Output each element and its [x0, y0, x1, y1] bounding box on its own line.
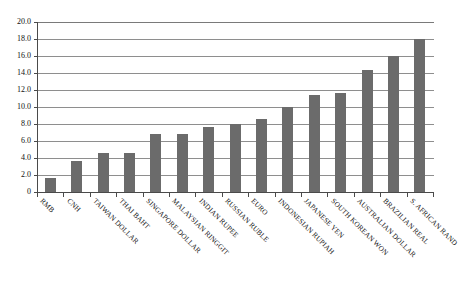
y-tick-label: 0	[0, 188, 31, 196]
x-axis-labels: RMBCNHTAIWAN DOLLARTHAI BAHTSINGAPORE DO…	[37, 197, 437, 284]
x-tick-label: TAIWAN DOLLAR	[91, 197, 140, 246]
bar	[414, 39, 425, 192]
x-tick-label: RMB	[39, 197, 56, 214]
y-tick-label: 18.0	[0, 35, 31, 43]
bar	[177, 134, 188, 192]
bar	[45, 178, 56, 192]
x-tick-label: EURO	[250, 197, 270, 217]
y-tick-label: 12.0	[0, 86, 31, 94]
bar	[230, 124, 241, 192]
bar	[71, 161, 82, 192]
bar	[256, 119, 267, 192]
bar	[124, 153, 135, 192]
y-tick-label: 16.0	[0, 52, 31, 60]
y-tick-label: 2.0	[0, 171, 31, 179]
x-tick-label: S. AFRICAN RAND	[408, 197, 458, 247]
bar	[98, 153, 109, 192]
chart-title	[0, 0, 437, 1]
x-tick-label: CNH	[65, 197, 82, 214]
bar	[362, 70, 373, 192]
bar	[203, 127, 214, 192]
bar	[282, 107, 293, 192]
y-tick-label: 4.0	[0, 154, 31, 162]
bar	[335, 93, 346, 192]
y-tick-label: 10.0	[0, 103, 31, 111]
y-tick-label: 8.0	[0, 120, 31, 128]
bar	[150, 134, 161, 192]
bar	[388, 56, 399, 192]
y-tick-label: 20.0	[0, 18, 31, 26]
bar-series	[37, 22, 433, 192]
y-tick-label: 14.0	[0, 69, 31, 77]
bar	[309, 95, 320, 192]
y-tick-label: 6.0	[0, 137, 31, 145]
